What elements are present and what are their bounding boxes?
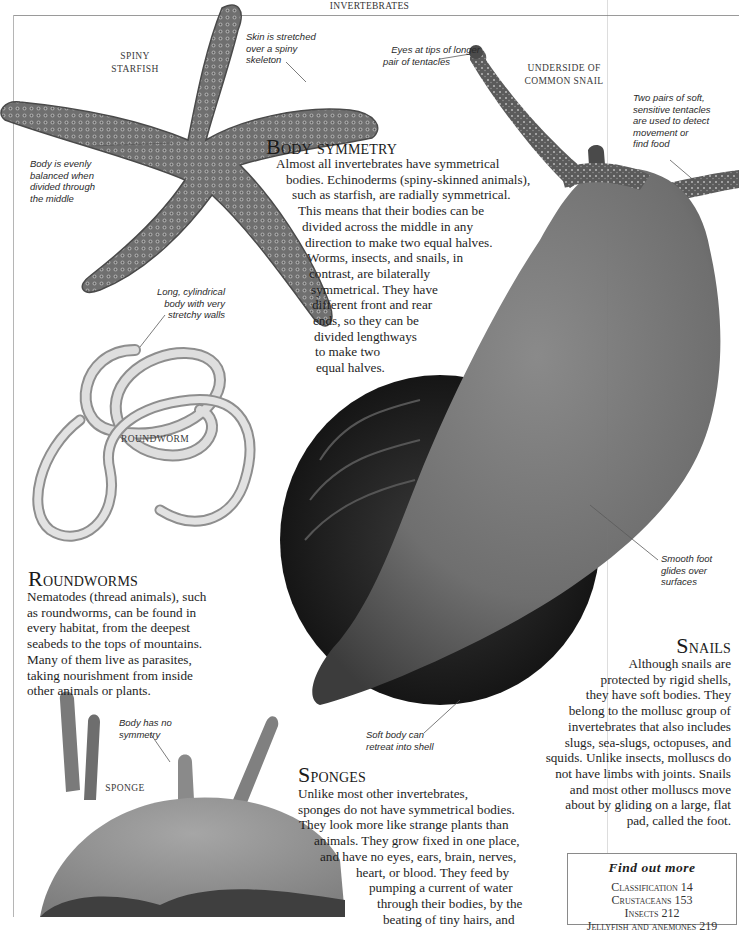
annotation-line: are used to detect — [633, 115, 711, 127]
text-line: invertebrates that also includes — [546, 719, 731, 735]
annotation-line: glides over — [661, 565, 712, 577]
label-line: UNDERSIDE OF — [508, 62, 620, 75]
cross-reference-link[interactable]: Jellyfish and anemones 219 — [568, 920, 736, 933]
annotation-no-symmetry: Body has no symmetry — [119, 717, 172, 740]
text-line: symmetrical. They have — [311, 282, 530, 298]
annotation-line: pair of tentacles — [370, 56, 480, 68]
text-line: This means that their bodies can be — [298, 203, 530, 219]
text-line: divided across the middle in any — [302, 219, 530, 235]
annotation-line: Eyes at tips of longer — [370, 44, 480, 56]
label-line: COMMON SNAIL — [508, 75, 620, 88]
annotation-line: Skin is stretched — [246, 31, 316, 43]
text-line: through their bodies, by the — [377, 896, 522, 912]
annotation-line: Two pairs of soft, — [633, 92, 711, 104]
heading-snails: Snails — [676, 635, 731, 657]
text-line: Unlike most other invertebrates, — [298, 786, 522, 802]
text-line: different front and rear — [312, 297, 530, 313]
cross-reference-label: Classification — [611, 880, 678, 894]
text-line: every habitat, from the deepest — [27, 620, 206, 636]
label-line: STARFISH — [95, 63, 175, 76]
text-line: not have limbs with joints. Snails — [546, 766, 731, 782]
annotation-line: movement or — [633, 127, 711, 139]
heading-rest: oundworms — [43, 568, 138, 590]
text-line: sponges do not have symmetrical bodies. — [298, 802, 522, 818]
annotation-line: surfaces — [661, 576, 712, 588]
text-line: pumping a current of water — [369, 880, 522, 896]
annotation-soft-body-retreat: Soft body can retreat into shell — [366, 729, 434, 752]
text-line: other animals or plants. — [27, 683, 206, 699]
text-line: beating of tiny hairs, and — [383, 912, 522, 928]
text-line: animals. They grow fixed in one place, — [314, 833, 522, 849]
cross-reference-label: Crustaceans — [612, 893, 672, 907]
text-line: heart, or blood. They feed by — [356, 865, 522, 881]
text-line: and most other molluscs move — [546, 782, 731, 798]
paragraph-sponges: Unlike most other invertebrates, sponges… — [0, 786, 522, 927]
heading-rest: nails — [689, 635, 731, 657]
text-line: Nematodes (thread animals), such — [27, 589, 206, 605]
text-line: Almost all invertebrates have symmetrica… — [276, 156, 530, 172]
text-line: Many of them live as parasites, — [27, 652, 206, 668]
text-line: direction to make two equal halves. — [305, 235, 530, 251]
annotation-line: Body has no — [119, 717, 172, 729]
label-roundworm: ROUNDWORM — [115, 433, 195, 446]
annotation-line: retreat into shell — [366, 741, 434, 753]
text-line: and have no eyes, ears, brain, nerves, — [320, 849, 522, 865]
annotation-line: Soft body can — [366, 729, 434, 741]
text-line: slugs, sea-slugs, octopuses, and — [546, 735, 731, 751]
annotation-tentacles: Two pairs of soft, sensitive tentacles a… — [633, 92, 711, 150]
paragraph-body-symmetry: Almost all invertebrates have symmetrica… — [0, 156, 530, 376]
text-line: belong to the mollusc group of — [546, 703, 731, 719]
heading-body-symmetry: Body symmetry — [266, 136, 397, 158]
text-line: equal halves. — [316, 360, 530, 376]
text-line: seabeds to the tops of mountains. — [27, 636, 206, 652]
cross-reference-page: 212 — [661, 906, 679, 920]
text-line: protected by rigid shells, — [546, 672, 731, 688]
text-line: pad, called the foot. — [546, 813, 731, 829]
label-underside-common-snail: UNDERSIDE OF COMMON SNAIL — [508, 62, 620, 88]
label-line: SPINY — [95, 50, 175, 63]
annotation-eyes-tips: Eyes at tips of longer pair of tentacles — [370, 44, 480, 67]
paragraph-snails: Although snails are protected by rigid s… — [546, 656, 731, 829]
annotation-line: symmetry — [119, 729, 172, 741]
text-line: Although snails are — [546, 656, 731, 672]
heading-sponges: Sponges — [298, 764, 366, 786]
text-line: about by gliding on a large, flat — [546, 797, 731, 813]
text-line: bodies. Echinoderms (spiny-skinned anima… — [286, 172, 530, 188]
annotation-line: Smooth foot — [661, 553, 712, 565]
label-spiny-starfish: SPINY STARFISH — [95, 50, 175, 76]
text-line: taking nourishment from inside — [27, 668, 206, 684]
heading-rest: ody symmetry — [281, 136, 397, 158]
cross-reference-page: 153 — [674, 893, 692, 907]
text-line: Worms, insects, and snails, in — [307, 250, 530, 266]
text-line: to make two — [315, 344, 530, 360]
heading-rest: ponges — [310, 764, 366, 786]
annotation-line: find food — [633, 138, 711, 150]
text-line: divided lengthways — [314, 329, 530, 345]
text-line: they have soft bodies. They — [546, 687, 731, 703]
heading-roundworms: Roundworms — [28, 568, 138, 590]
cross-reference-page: 219 — [699, 919, 717, 933]
text-line: squids. Unlike insects, molluscs do — [546, 750, 731, 766]
heading-initial: S — [298, 762, 310, 787]
text-line: as roundworms, can be found in — [27, 605, 206, 621]
annotation-line: skeleton — [246, 54, 316, 66]
annotation-skin-stretched: Skin is stretched over a spiny skeleton — [246, 31, 316, 66]
cross-reference-label: Insects — [625, 906, 659, 920]
text-line: They look more like strange plants than — [299, 817, 522, 833]
heading-initial: R — [28, 566, 43, 591]
text-line: contrast, are bilaterally — [309, 266, 530, 282]
text-line: ends, so they can be — [313, 313, 530, 329]
cross-reference-label: Jellyfish and anemones — [587, 919, 696, 933]
heading-initial: S — [676, 633, 688, 658]
annotation-line: sensitive tentacles — [633, 104, 711, 116]
text-line: such as starfish, are radially symmetric… — [292, 187, 530, 203]
annotation-smooth-foot: Smooth foot glides over surfaces — [661, 553, 712, 588]
paragraph-roundworms: Nematodes (thread animals), such as roun… — [27, 589, 206, 699]
annotation-line: over a spiny — [246, 43, 316, 55]
find-out-more-title: Find out more — [568, 860, 736, 876]
cross-reference-page: 14 — [681, 880, 693, 894]
find-out-more-box: Find out more Classification 14 Crustace… — [567, 853, 737, 925]
